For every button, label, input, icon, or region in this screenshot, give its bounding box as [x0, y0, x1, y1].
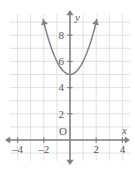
x-axis-label: x: [121, 124, 127, 136]
y-tick-label: 4: [59, 81, 65, 93]
y-tick-label: 6: [59, 55, 65, 67]
y-axis-label: y: [74, 11, 80, 23]
x-tick-label: 2: [93, 143, 99, 155]
x-tick-label: –2: [37, 143, 49, 155]
x-tick-label: –4: [11, 143, 24, 155]
origin-label: O: [59, 125, 67, 137]
y-tick-label: 2: [59, 108, 65, 120]
y-tick-label: 8: [59, 29, 65, 41]
x-tick-label: 4: [120, 143, 126, 155]
parabola-graph: –4–2242468 x y O: [0, 0, 135, 169]
graph-figure: –4–2242468 x y O: [0, 0, 135, 169]
